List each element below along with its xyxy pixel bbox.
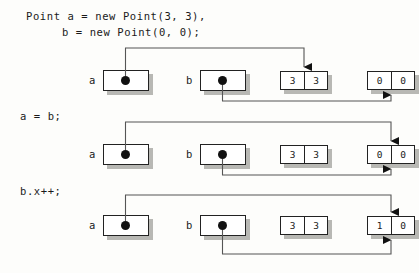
pointer-dot-a-row2 <box>121 150 130 159</box>
object-box-10-row3: 1 0 <box>367 216 415 235</box>
object-cell-y-10-row3: 0 <box>391 217 414 234</box>
object-cell-y-33-row1: 3 <box>304 72 327 89</box>
object-cell-x-33-row1: 3 <box>281 72 304 89</box>
pointer-dot-b-row1 <box>218 76 227 85</box>
code-line-declaration-1: Point a = new Point(3, 3), <box>26 10 206 22</box>
pointer-dot-b-row2 <box>218 150 227 159</box>
var-label-b-row3: b <box>186 219 192 231</box>
connector-a-to-object10-row3 <box>126 195 392 221</box>
statement-label-assign: a = b; <box>20 110 62 122</box>
object-cell-x-00-row1: 0 <box>368 72 391 89</box>
statement-label-increment: b.x++; <box>20 185 62 197</box>
pointer-dot-a-row1 <box>121 76 130 85</box>
connector-a-to-object00-row2 <box>126 122 392 150</box>
object-cell-x-00-row2: 0 <box>368 146 391 163</box>
pointer-dot-b-row3 <box>218 221 227 230</box>
object-cell-x-33-row2: 3 <box>281 146 304 163</box>
object-box-33-row1: 3 3 <box>280 71 328 90</box>
figure-canvas: Point a = new Point(3, 3), b = new Point… <box>0 0 419 273</box>
var-label-a-row2: a <box>89 148 95 160</box>
object-box-33-row3: 3 3 <box>280 216 328 235</box>
object-box-00-row1: 0 0 <box>367 71 415 90</box>
object-cell-y-00-row1: 0 <box>391 72 414 89</box>
object-cell-x-33-row3: 3 <box>281 217 304 234</box>
var-label-a-row3: a <box>89 219 95 231</box>
var-label-b-row2: b <box>186 148 192 160</box>
pointer-dot-a-row3 <box>121 221 130 230</box>
object-cell-y-33-row3: 3 <box>304 217 327 234</box>
object-cell-y-33-row2: 3 <box>304 146 327 163</box>
var-label-a-row1: a <box>89 74 95 86</box>
var-label-b-row1: b <box>186 74 192 86</box>
object-cell-y-00-row2: 0 <box>391 146 414 163</box>
object-box-33-row2: 3 3 <box>280 145 328 164</box>
code-line-declaration-2: b = new Point(0, 0); <box>62 26 200 38</box>
object-box-00-row2: 0 0 <box>367 145 415 164</box>
object-cell-x-10-row3: 1 <box>368 217 391 234</box>
